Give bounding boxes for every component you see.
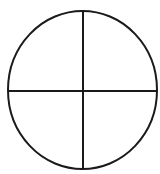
- diagram-canvas: [0, 0, 160, 174]
- quadrant-circle-diagram: [0, 0, 160, 174]
